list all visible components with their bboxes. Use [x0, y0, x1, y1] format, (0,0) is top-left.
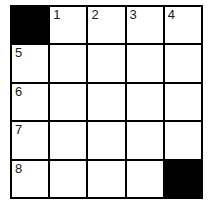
crossword-cell[interactable]: 1: [50, 7, 86, 43]
crossword-cell[interactable]: 3: [127, 7, 163, 43]
crossword-cell[interactable]: 2: [88, 7, 124, 43]
crossword-cell[interactable]: [165, 122, 201, 158]
crossword-cell[interactable]: [127, 122, 163, 158]
crossword-cell[interactable]: [50, 84, 86, 120]
crossword-cell[interactable]: [127, 84, 163, 120]
clue-number: 8: [15, 162, 22, 176]
crossword-cell[interactable]: [165, 45, 201, 81]
clue-number: 7: [15, 123, 22, 137]
crossword-cell[interactable]: [88, 122, 124, 158]
crossword-cell[interactable]: [165, 84, 201, 120]
clue-number: 2: [91, 8, 98, 22]
crossword-cell[interactable]: 5: [12, 45, 48, 81]
crossword-cell[interactable]: [88, 84, 124, 120]
crossword-cell[interactable]: 7: [12, 122, 48, 158]
crossword-grid: 12345678: [10, 5, 203, 199]
clue-number: 5: [15, 46, 22, 60]
clue-number: 3: [130, 8, 137, 22]
crossword-cell[interactable]: [127, 161, 163, 197]
crossword-cell[interactable]: [88, 161, 124, 197]
clue-number: 4: [168, 8, 175, 22]
crossword-cell[interactable]: [127, 45, 163, 81]
crossword-cell[interactable]: [88, 45, 124, 81]
crossword-cell[interactable]: 6: [12, 84, 48, 120]
crossword-cell[interactable]: 8: [12, 161, 48, 197]
crossword-cell[interactable]: [50, 45, 86, 81]
block-cell: [165, 161, 201, 197]
crossword-cell[interactable]: [50, 122, 86, 158]
clue-number: 6: [15, 85, 22, 99]
crossword-cell[interactable]: [50, 161, 86, 197]
crossword-cell[interactable]: 4: [165, 7, 201, 43]
clue-number: 1: [53, 8, 60, 22]
block-cell: [12, 7, 48, 43]
